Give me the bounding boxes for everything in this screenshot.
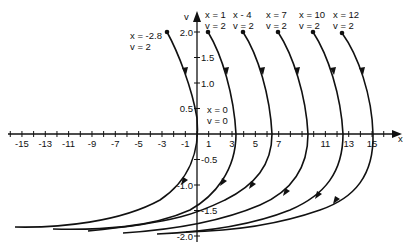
x-tick-label: -1 — [181, 138, 189, 149]
x-tick-label: -15 — [15, 138, 29, 149]
trajectory-start-x-label: x = 1 — [205, 9, 226, 20]
phase-portrait-diagram: x -15-13-11-9-7-5-3-11357111315 v 2.01.5… — [0, 0, 411, 251]
x-tick-label: -7 — [111, 138, 119, 149]
x-tick-label: 11 — [320, 138, 330, 149]
trajectory-0: x = -2.8 v = 2 — [15, 30, 198, 227]
x-tick-label: 3 — [229, 138, 234, 149]
trajectory-start-v-label: v = 2 — [205, 20, 226, 31]
x-tick-label: -13 — [38, 138, 52, 149]
trajectory-start-v-label: v = 2 — [233, 20, 254, 31]
x-tick-label: 5 — [253, 138, 258, 149]
trajectory-start-v-label: v = 2 — [266, 20, 287, 31]
v-tick-label: 0.5 — [180, 103, 193, 114]
trajectory-start-x-label: x = 7 — [266, 9, 287, 20]
trajectory-start-x-label: x - 4 — [233, 9, 251, 20]
origin-x-label: x = 0 — [207, 104, 228, 115]
x-axis-label: x — [398, 133, 403, 144]
trajectory-arrow-icon — [315, 191, 322, 199]
trajectory-arrow-icon — [249, 181, 256, 189]
x-tick-label: 1 — [206, 138, 211, 149]
x-tick-label: 7 — [276, 138, 281, 149]
v-tick-label: 1.0 — [201, 78, 214, 89]
v-tick-label: -0.5 — [201, 154, 217, 165]
trajectory-start-v-label: v = 2 — [333, 20, 354, 31]
x-tick-label: -3 — [158, 138, 166, 149]
trajectory-start-x-label: x = 12 — [333, 9, 359, 20]
v-axis-label: v — [184, 11, 189, 22]
trajectory-start-v-label: v = 2 — [130, 41, 151, 52]
x-axis: x -15-13-11-9-7-5-3-11357111315 — [8, 130, 403, 149]
trajectory-curve — [15, 32, 198, 227]
x-tick-label: 13 — [343, 138, 354, 149]
v-tick-label: 1.5 — [201, 52, 214, 63]
trajectory-start-x-label: x = 10 — [299, 9, 325, 20]
v-tick-label: 2.0 — [180, 27, 193, 38]
x-tick-label: -11 — [62, 138, 75, 149]
trajectory-start-x-label: x = -2.8 — [130, 30, 162, 41]
trajectory-start-v-label: v = 2 — [299, 20, 320, 31]
v-axis-arrowhead-icon — [193, 11, 201, 22]
x-tick-label: -5 — [134, 138, 142, 149]
trajectory-arrow-icon — [220, 178, 227, 186]
origin-label: x = 0 v = 0 — [207, 104, 228, 126]
trajectory-2: x - 4 v = 2 — [88, 9, 272, 231]
origin-v-label: v = 0 — [207, 115, 228, 126]
x-tick-label: -9 — [88, 138, 96, 149]
